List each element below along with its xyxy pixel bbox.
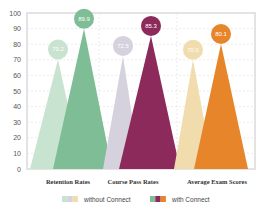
category-label: Average Exam Scores [187,178,248,185]
y-tick-label: 40 [13,103,21,110]
legend-swatch-without [67,196,72,202]
y-tick-label: 50 [13,88,21,95]
legend-label-without: without Connect [83,196,131,203]
legend: without Connectwith Connect [62,196,210,203]
y-tick-label: 30 [13,119,21,126]
y-tick-label: 10 [13,150,21,157]
legend-swatch-without [62,196,67,202]
value-label: 70.0 [187,47,199,53]
y-tick-label: 80 [13,41,21,48]
triangle-marks: 70.289.972.585.370.080.1 [30,9,248,169]
legend-swatch-with [155,196,160,202]
legend-swatch-without [73,196,78,202]
legend-swatch-with [161,196,166,202]
value-label: 89.9 [78,16,90,22]
chart: 0102030405060708090100 70.289.972.585.37… [0,0,261,207]
category-labels: Retention RatesCourse Pass RatesAverage … [46,178,248,185]
category-label: Course Pass Rates [108,178,159,185]
value-label: 80.1 [215,31,227,37]
y-tick-label: 0 [17,166,21,173]
y-tick-label: 20 [13,134,21,141]
y-tick-label: 60 [13,72,21,79]
y-tick-label: 90 [13,25,21,32]
legend-swatch-with [150,196,155,202]
y-axis: 0102030405060708090100 [9,10,21,173]
y-tick-label: 70 [13,56,21,63]
value-label: 85.3 [145,23,157,29]
legend-label-with: with Connect [171,196,210,203]
category-label: Retention Rates [46,178,91,185]
y-tick-label: 100 [9,10,21,17]
value-label: 72.5 [117,43,129,49]
value-label: 70.2 [52,46,64,52]
